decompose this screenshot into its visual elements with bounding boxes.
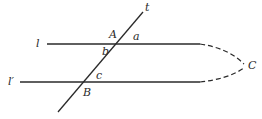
label-angle-c: c [96,70,102,81]
label-line-l-prime: l′ [8,76,14,87]
dashed-extension-l [200,44,244,64]
label-angle-b: b [102,46,109,57]
label-line-l: l [36,38,40,49]
label-line-t: t [145,2,149,13]
dashed-extension-l-prime [200,68,244,82]
line-t [58,12,143,112]
label-point-b: B [83,87,91,98]
label-point-c: C [248,60,256,71]
diagram-svg [0,0,262,119]
label-angle-a: a [133,31,140,42]
label-point-a: A [109,29,117,40]
diagram-canvas: l l′ t A B C a b c [0,0,262,119]
